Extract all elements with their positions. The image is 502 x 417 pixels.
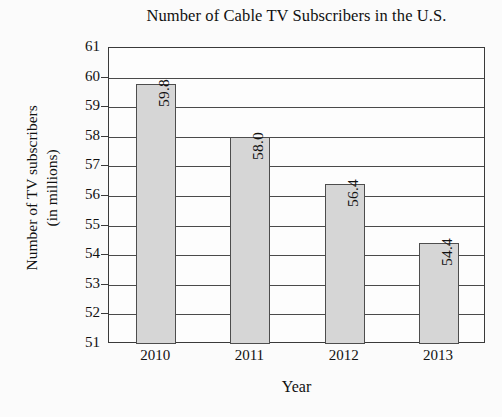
y-axis-tick xyxy=(101,106,108,107)
y-axis-tick xyxy=(101,225,108,226)
y-axis-tick-label: 55 xyxy=(64,217,100,232)
bar: 59.8 xyxy=(136,84,176,344)
y-axis-tick xyxy=(101,254,108,255)
y-axis-tick-label: 54 xyxy=(64,246,100,261)
bar-value-label: 59.8 xyxy=(156,79,172,107)
y-axis-tick xyxy=(101,195,108,196)
x-axis-tick-label: 2013 xyxy=(393,348,483,363)
y-axis-tick-label: 51 xyxy=(64,335,100,350)
y-axis-tick-label: 58 xyxy=(64,128,100,143)
y-axis-tick xyxy=(101,77,108,78)
y-axis-tick-label: 61 xyxy=(64,39,100,54)
y-axis-tick xyxy=(101,165,108,166)
y-axis-tick-label: 53 xyxy=(64,276,100,291)
plot-area: 59.858.056.454.4 xyxy=(108,47,485,343)
y-axis-tick-label: 60 xyxy=(64,69,100,84)
y-axis-tick-label: 56 xyxy=(64,187,100,202)
x-axis-tick-label: 2012 xyxy=(299,348,389,363)
bar: 56.4 xyxy=(325,184,365,344)
x-axis-tick-label: 2010 xyxy=(110,348,200,363)
bar-value-label: 58.0 xyxy=(250,132,266,160)
bar-value-label: 54.4 xyxy=(439,238,455,266)
y-axis-tick-label: 52 xyxy=(64,305,100,320)
bar-value-label: 56.4 xyxy=(345,179,361,207)
y-axis-tick xyxy=(101,284,108,285)
y-axis-tick-labels: 6160595857565554535251 xyxy=(56,0,100,417)
x-axis-tick-label: 2011 xyxy=(204,348,294,363)
y-axis-tick-label: 59 xyxy=(64,98,100,113)
bar: 58.0 xyxy=(230,137,270,344)
y-axis-tick-label: 57 xyxy=(64,157,100,172)
y-axis-title-line-1: Number of TV subscribers xyxy=(22,63,42,313)
chart-title: Number of Cable TV Subscribers in the U.… xyxy=(108,6,485,26)
y-axis-tick xyxy=(101,136,108,137)
bar-chart-figure: Number of Cable TV Subscribers in the U.… xyxy=(0,0,502,417)
bar: 54.4 xyxy=(419,243,459,344)
y-axis-tick xyxy=(101,313,108,314)
x-axis-title: Year xyxy=(108,378,485,396)
